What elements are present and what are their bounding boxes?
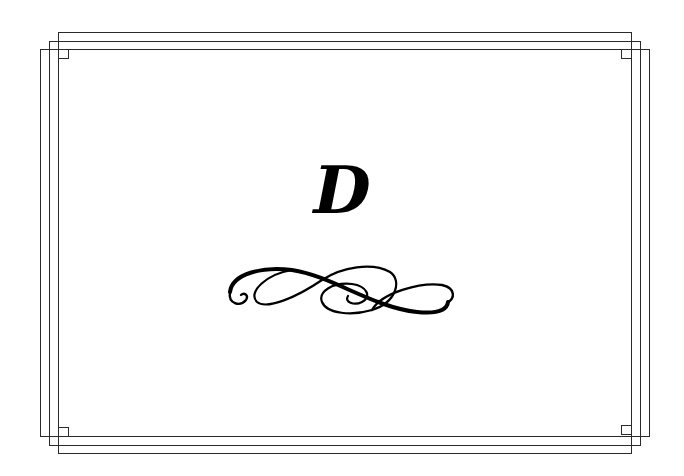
flourish-ornament-icon (222, 252, 462, 322)
ornamental-letter: D (0, 150, 684, 230)
corner-square-top-right (621, 49, 632, 59)
frame-rect-outer-wide (40, 49, 650, 437)
corner-square-top-left (58, 49, 69, 59)
corner-square-bottom-left (58, 427, 69, 437)
corner-square-bottom-right (621, 425, 632, 435)
